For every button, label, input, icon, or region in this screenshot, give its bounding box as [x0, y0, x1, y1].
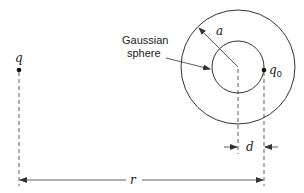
diagram-canvas: a Gaussian sphere q q0 d r — [0, 0, 304, 193]
distance-label: r — [130, 173, 137, 187]
test-charge-label: q0 — [269, 63, 282, 79]
source-charge-label: q — [15, 51, 23, 65]
gaussian-label-line1: Gaussian — [122, 34, 168, 46]
radius-label: a — [216, 24, 223, 38]
gaussian-label-line2: sphere — [127, 47, 161, 59]
test-charge-dot — [262, 68, 267, 73]
gaussian-pointer-arrow — [166, 58, 210, 69]
offset-label: d — [246, 140, 254, 154]
source-charge-dot — [17, 68, 22, 73]
